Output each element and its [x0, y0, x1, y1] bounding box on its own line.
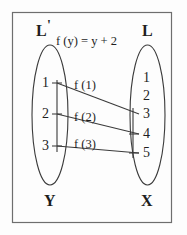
- codomain-top-label: L: [142, 23, 153, 39]
- domain-bottom-label: Y: [44, 193, 56, 209]
- mapping-label-2: f (2): [74, 111, 96, 124]
- domain-top-label: L': [36, 23, 51, 39]
- function-formula: f (y) = y + 2: [56, 35, 117, 48]
- mapping-label-3: f (3): [74, 138, 96, 151]
- codomain-element-4: 4: [143, 127, 150, 141]
- function-mapping-diagram: L' L f (y) = y + 2 1 2 3 1 2 3 4 5 f (1)…: [0, 0, 187, 235]
- mapping-line-3: [57, 146, 139, 153]
- domain-element-1: 1: [42, 76, 49, 90]
- mapping-label-1: f (1): [74, 79, 96, 92]
- codomain-element-1: 1: [143, 71, 150, 85]
- prime-mark: ': [47, 18, 51, 33]
- domain-top-label-text: L: [36, 22, 47, 39]
- mapping-line-2: [57, 114, 139, 134]
- domain-element-3: 3: [42, 139, 49, 153]
- codomain-element-5: 5: [143, 146, 150, 160]
- domain-element-2: 2: [42, 107, 49, 121]
- mapping-line-1: [57, 83, 139, 114]
- codomain-bottom-label: X: [141, 193, 153, 209]
- codomain-element-2: 2: [143, 89, 150, 103]
- codomain-element-3: 3: [143, 107, 150, 121]
